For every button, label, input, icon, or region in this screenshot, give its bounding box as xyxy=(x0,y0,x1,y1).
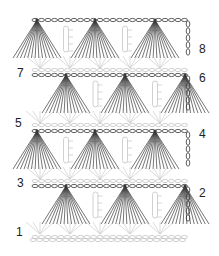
foundation-chain xyxy=(128,238,134,241)
fan-stitch-line xyxy=(185,186,198,224)
chain-row-7 xyxy=(52,68,58,71)
chain-row-2 xyxy=(149,184,155,187)
chain-row-7 xyxy=(175,68,181,71)
chain-row-6 xyxy=(78,73,84,76)
chain-row-2 xyxy=(162,184,168,187)
light-fan-line xyxy=(130,56,144,68)
fan-stitch-line xyxy=(42,75,66,113)
light-fan-line xyxy=(70,167,84,179)
chain-row-3 xyxy=(123,179,129,182)
chain-row-3 xyxy=(182,179,188,182)
turning-chain xyxy=(186,49,190,55)
chain-row-5 xyxy=(45,123,51,126)
fan-apex xyxy=(64,73,67,76)
fan-stitch-line xyxy=(42,186,66,224)
light-fan-line xyxy=(153,111,160,123)
fan-apex xyxy=(183,184,186,187)
chain-row-7 xyxy=(39,68,45,71)
chain-row-2 xyxy=(156,184,162,187)
light-fan-line xyxy=(93,222,100,234)
light-fan-line xyxy=(56,56,70,68)
chain-row-5 xyxy=(39,123,45,126)
post-stitch xyxy=(123,26,128,52)
light-fan-line xyxy=(86,222,100,234)
chain-row-8 xyxy=(110,18,116,21)
chain-row-7 xyxy=(169,68,175,71)
light-fan-line xyxy=(40,222,47,234)
chain-row-6 xyxy=(45,73,51,76)
fan-apex xyxy=(153,129,156,132)
fan-stitch-line xyxy=(125,75,138,113)
light-fan-line xyxy=(160,222,174,234)
fan-stitch-line xyxy=(161,75,185,113)
chain-row-8 xyxy=(65,18,71,21)
foundation-chain xyxy=(63,238,69,241)
chain-row-7 xyxy=(104,68,110,71)
fan-apex xyxy=(153,18,156,21)
chain-row-2 xyxy=(104,184,110,187)
foundation-chain xyxy=(108,238,114,241)
light-fan-line xyxy=(130,167,144,179)
chain-row-7 xyxy=(84,68,90,71)
chain-row-6 xyxy=(149,73,155,76)
fan-stitch-line xyxy=(125,75,149,113)
chain-row-8 xyxy=(71,18,77,21)
light-fan-line xyxy=(146,111,160,123)
chain-row-8 xyxy=(39,18,45,21)
light-fan-line xyxy=(56,167,70,179)
chain-row-5 xyxy=(117,123,123,126)
fan-stitch-line xyxy=(95,20,108,58)
chain-row-7 xyxy=(58,68,64,71)
chain-row-8 xyxy=(130,18,136,21)
post-stitch xyxy=(123,137,128,163)
foundation-chain xyxy=(121,238,127,241)
chain-row-3 xyxy=(97,179,103,182)
post-stitch xyxy=(93,192,98,218)
foundation-chain xyxy=(95,238,101,241)
light-fan-line xyxy=(160,167,167,179)
fan-stitch-line xyxy=(161,186,185,224)
fan-apex xyxy=(123,73,126,76)
light-fan-line xyxy=(160,111,174,123)
fan-stitch-line xyxy=(125,186,138,224)
chain-row-2 xyxy=(45,184,51,187)
fan-stitch-line xyxy=(131,20,155,58)
light-fan-line xyxy=(100,167,107,179)
fan-apex xyxy=(183,73,186,76)
chain-row-6 xyxy=(169,73,175,76)
chain-row-8 xyxy=(175,18,181,21)
chain-row-5 xyxy=(97,123,103,126)
chain-row-2 xyxy=(52,184,58,187)
fan-apex xyxy=(64,184,67,187)
chain-row-4 xyxy=(78,129,84,132)
light-fan-line xyxy=(40,167,54,179)
chain-row-7 xyxy=(123,68,129,71)
turning-chain xyxy=(186,132,190,138)
light-fan-line xyxy=(130,111,137,123)
light-fan-line xyxy=(26,111,40,123)
light-fan-line xyxy=(160,167,174,179)
chain-row-7 xyxy=(65,68,71,71)
chain-row-3 xyxy=(117,179,123,182)
foundation-chain xyxy=(160,238,166,241)
chain-row-2 xyxy=(84,184,90,187)
chain-row-4 xyxy=(39,129,45,132)
chain-row-5 xyxy=(143,123,149,126)
turning-chain xyxy=(186,35,190,41)
chain-row-5 xyxy=(52,123,58,126)
fan-stitch-line xyxy=(66,186,79,224)
chain-row-2 xyxy=(97,184,103,187)
fan-stitch-line xyxy=(13,131,37,169)
foundation-chain xyxy=(115,238,121,241)
chain-row-3 xyxy=(169,179,175,182)
chain-row-2 xyxy=(110,184,116,187)
chain-row-4 xyxy=(143,129,149,132)
light-fan-line xyxy=(123,56,130,68)
chain-row-2 xyxy=(78,184,84,187)
fan-stitch-line xyxy=(71,20,95,58)
foundation-chain xyxy=(30,238,36,241)
turning-chain xyxy=(186,160,190,166)
chain-row-4 xyxy=(104,129,110,132)
chain-row-5 xyxy=(162,123,168,126)
chain-row-6 xyxy=(143,73,149,76)
